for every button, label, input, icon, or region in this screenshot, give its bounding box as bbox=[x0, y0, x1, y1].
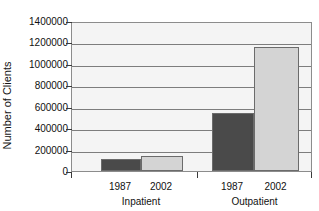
y-tick-label: 0 bbox=[14, 167, 68, 177]
x-group-label: Inpatient bbox=[101, 196, 181, 207]
x-year-label: 1987 bbox=[208, 181, 256, 192]
bar bbox=[141, 156, 183, 171]
y-tick-label: 1200000 bbox=[14, 38, 68, 48]
y-tick-mark bbox=[66, 22, 72, 23]
y-tick-label: 200000 bbox=[14, 146, 68, 156]
y-tick-mark bbox=[66, 65, 72, 66]
x-tick-mark bbox=[71, 172, 72, 178]
y-tick-label: 1400000 bbox=[14, 17, 68, 27]
bar-chart: Number of Clients 0200000400000600000800… bbox=[0, 0, 319, 211]
x-group-label: Outpatient bbox=[215, 196, 295, 207]
y-tick-label: 1000000 bbox=[14, 60, 68, 70]
x-tick-mark bbox=[311, 172, 312, 178]
gridline bbox=[72, 44, 311, 45]
y-axis-tick-labels: 0200000400000600000800000100000012000001… bbox=[14, 0, 68, 211]
y-tick-mark bbox=[66, 151, 72, 152]
x-year-label: 2002 bbox=[252, 181, 300, 192]
y-tick-label: 800000 bbox=[14, 81, 68, 91]
x-tick-mark bbox=[197, 172, 198, 178]
bar bbox=[254, 47, 299, 171]
y-tick-mark bbox=[66, 129, 72, 130]
plot-area bbox=[71, 22, 312, 172]
y-tick-label: 600000 bbox=[14, 103, 68, 113]
y-tick-mark bbox=[66, 108, 72, 109]
bar bbox=[212, 113, 254, 171]
bar bbox=[101, 159, 141, 171]
y-tick-mark bbox=[66, 86, 72, 87]
y-tick-label: 400000 bbox=[14, 124, 68, 134]
y-axis-title: Number of Clients bbox=[0, 0, 14, 211]
y-tick-mark bbox=[66, 43, 72, 44]
x-year-label: 2002 bbox=[137, 181, 185, 192]
